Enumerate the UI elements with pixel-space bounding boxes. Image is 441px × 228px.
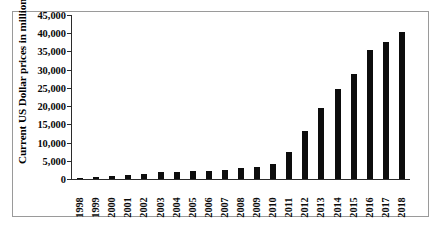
bar[interactable] (383, 42, 389, 179)
x-axis-tick-label: 2008 (234, 197, 245, 217)
bar-slot (104, 15, 120, 179)
bar-slot (136, 15, 152, 179)
bar-slot (233, 15, 249, 179)
bar[interactable] (158, 172, 164, 179)
x-axis-tick-slot: 2010 (264, 182, 280, 226)
y-axis-tick-label: 10,000 (18, 137, 66, 148)
x-axis-tick-label: 2017 (379, 197, 390, 217)
bar-slot (330, 15, 346, 179)
bar[interactable] (399, 32, 405, 179)
chart-figure: Current US Dollar prices in millions 05,… (0, 0, 441, 228)
bar-slot (88, 15, 104, 179)
x-axis-tick-label: 2007 (218, 197, 229, 217)
bar-slot (120, 15, 136, 179)
bar[interactable] (190, 171, 196, 179)
x-axis-tick-slot: 2015 (345, 182, 361, 226)
x-axis-tick-label: 2014 (331, 197, 342, 217)
y-axis-tick-label: 30,000 (18, 64, 66, 75)
y-axis-tick-mark (67, 179, 72, 180)
bar[interactable] (335, 89, 341, 179)
x-axis-tick-label: 2012 (299, 197, 310, 217)
x-axis-tick-slot: 2006 (200, 182, 216, 226)
x-axis-tick-label: 2002 (138, 197, 149, 217)
bar[interactable] (351, 74, 357, 179)
x-axis-tick-label: 2010 (267, 197, 278, 217)
bar-slot (217, 15, 233, 179)
x-axis-tick-slot: 1998 (71, 182, 87, 226)
bar[interactable] (254, 167, 260, 179)
bar-slot (152, 15, 168, 179)
y-axis-tick-label: 35,000 (18, 46, 66, 57)
x-axis-tick-label: 2015 (347, 197, 358, 217)
bar-slot (297, 15, 313, 179)
x-axis-tick-slot: 2014 (329, 182, 345, 226)
y-axis-tick-label: 5,000 (18, 155, 66, 166)
bar-slot (201, 15, 217, 179)
x-axis-tick-label: 2016 (363, 197, 374, 217)
bar-slot (378, 15, 394, 179)
bar-slot (185, 15, 201, 179)
bar[interactable] (238, 168, 244, 179)
x-axis-tick-slot: 2004 (168, 182, 184, 226)
x-axis-tick-label: 1998 (74, 197, 85, 217)
x-axis-tick-label: 2000 (106, 197, 117, 217)
y-axis-tick-label: 40,000 (18, 28, 66, 39)
x-axis-tick-label: 2006 (202, 197, 213, 217)
bar[interactable] (93, 177, 99, 179)
x-axis-tick-slot: 2003 (151, 182, 167, 226)
bar-slot (313, 15, 329, 179)
bar-slot (169, 15, 185, 179)
x-axis-tick-slot: 2001 (119, 182, 135, 226)
bar[interactable] (174, 172, 180, 179)
x-axis-tick-slot: 1999 (87, 182, 103, 226)
y-axis-tick-label: 15,000 (18, 119, 66, 130)
y-axis-tick-label: 45,000 (18, 10, 66, 21)
bar-slot (362, 15, 378, 179)
bar[interactable] (302, 131, 308, 179)
x-axis-tick-slot: 2009 (248, 182, 264, 226)
x-axis-tick-label: 2018 (395, 197, 406, 217)
y-axis-tick-label: 20,000 (18, 101, 66, 112)
x-axis-tick-slot: 2002 (135, 182, 151, 226)
bar[interactable] (367, 50, 373, 179)
x-axis-tick-slot: 2005 (184, 182, 200, 226)
x-axis-tick-labels: 1998199920002001200220032004200520062007… (71, 182, 410, 226)
x-axis-tick-slot: 2018 (393, 182, 409, 226)
bar-slot (281, 15, 297, 179)
bar-slot (394, 15, 410, 179)
x-axis-tick-label: 2001 (122, 197, 133, 217)
x-axis-tick-label: 2013 (315, 197, 326, 217)
bar[interactable] (77, 178, 83, 180)
y-axis-tick-labels: 05,00010,00015,00020,00025,00030,00035,0… (18, 15, 66, 180)
x-axis-tick-slot: 2008 (232, 182, 248, 226)
x-axis-tick-label: 2004 (170, 197, 181, 217)
x-axis-tick-label: 2009 (251, 197, 262, 217)
bar-slot (265, 15, 281, 179)
bar[interactable] (222, 170, 228, 179)
x-axis-tick-slot: 2000 (103, 182, 119, 226)
x-axis-tick-label: 1999 (90, 197, 101, 217)
x-axis-tick-slot: 2007 (216, 182, 232, 226)
x-axis-tick-slot: 2017 (377, 182, 393, 226)
plot-area (71, 15, 410, 180)
bar[interactable] (109, 176, 115, 179)
bar-slot (72, 15, 88, 179)
bar[interactable] (286, 152, 292, 179)
bar-slot (249, 15, 265, 179)
bar[interactable] (141, 174, 147, 179)
bar-slot (346, 15, 362, 179)
bar[interactable] (206, 171, 212, 179)
bar[interactable] (270, 164, 276, 179)
x-axis-tick-slot: 2012 (296, 182, 312, 226)
x-axis-tick-label: 2003 (154, 197, 165, 217)
bar[interactable] (125, 175, 131, 179)
y-axis-tick-label: 0 (18, 174, 66, 185)
x-axis-tick-slot: 2016 (361, 182, 377, 226)
x-axis-tick-slot: 2013 (312, 182, 328, 226)
x-axis-tick-label: 2005 (186, 197, 197, 217)
y-axis-tick-label: 25,000 (18, 82, 66, 93)
x-axis-tick-slot: 2011 (280, 182, 296, 226)
bar[interactable] (318, 108, 324, 179)
x-axis-tick-label: 2011 (283, 198, 294, 218)
